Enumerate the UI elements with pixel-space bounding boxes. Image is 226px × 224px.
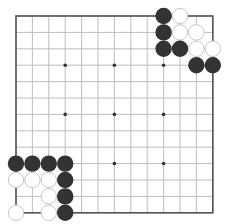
intersection[interactable]	[90, 188, 106, 204]
intersection[interactable]	[188, 106, 204, 122]
intersection[interactable]	[106, 90, 122, 106]
intersection[interactable]	[57, 73, 73, 89]
intersection[interactable]	[8, 8, 24, 24]
intersection[interactable]	[41, 24, 57, 40]
intersection[interactable]	[123, 8, 139, 24]
intersection[interactable]	[139, 8, 155, 24]
intersection[interactable]	[123, 106, 139, 122]
intersection[interactable]	[123, 41, 139, 57]
intersection[interactable]	[205, 106, 221, 122]
intersection[interactable]	[73, 106, 89, 122]
intersection[interactable]	[24, 57, 40, 73]
intersection[interactable]	[57, 41, 73, 57]
intersection[interactable]	[41, 106, 57, 122]
intersection[interactable]	[188, 139, 204, 155]
intersection[interactable]	[205, 90, 221, 106]
intersection[interactable]	[24, 41, 40, 57]
intersection[interactable]	[24, 205, 40, 221]
intersection[interactable]	[90, 41, 106, 57]
intersection[interactable]	[106, 188, 122, 204]
intersection[interactable]	[155, 139, 171, 155]
intersection[interactable]	[172, 123, 188, 139]
intersection[interactable]	[139, 155, 155, 171]
intersection[interactable]	[90, 90, 106, 106]
intersection[interactable]	[8, 106, 24, 122]
intersection[interactable]	[172, 90, 188, 106]
intersection[interactable]	[205, 155, 221, 171]
intersection[interactable]	[139, 106, 155, 122]
intersection[interactable]	[24, 188, 40, 204]
intersection[interactable]	[155, 57, 171, 73]
intersection[interactable]	[106, 41, 122, 57]
intersection[interactable]	[139, 172, 155, 188]
intersection[interactable]	[139, 139, 155, 155]
intersection[interactable]	[90, 139, 106, 155]
intersection[interactable]	[188, 188, 204, 204]
intersection[interactable]	[172, 139, 188, 155]
intersection[interactable]	[41, 139, 57, 155]
intersection[interactable]	[90, 155, 106, 171]
intersection[interactable]	[123, 155, 139, 171]
intersection[interactable]	[188, 155, 204, 171]
intersections[interactable]	[8, 8, 221, 221]
intersection[interactable]	[24, 139, 40, 155]
intersection[interactable]	[8, 123, 24, 139]
intersection[interactable]	[90, 8, 106, 24]
intersection[interactable]	[90, 123, 106, 139]
intersection[interactable]	[57, 24, 73, 40]
intersection[interactable]	[57, 57, 73, 73]
intersection[interactable]	[172, 172, 188, 188]
intersection[interactable]	[172, 106, 188, 122]
intersection[interactable]	[123, 205, 139, 221]
intersection[interactable]	[188, 8, 204, 24]
intersection[interactable]	[205, 188, 221, 204]
intersection[interactable]	[106, 123, 122, 139]
intersection[interactable]	[123, 73, 139, 89]
intersection[interactable]	[155, 90, 171, 106]
intersection[interactable]	[155, 106, 171, 122]
intersection[interactable]	[205, 8, 221, 24]
intersection[interactable]	[188, 123, 204, 139]
intersection[interactable]	[123, 188, 139, 204]
intersection[interactable]	[41, 123, 57, 139]
intersection[interactable]	[24, 8, 40, 24]
intersection[interactable]	[73, 172, 89, 188]
intersection[interactable]	[106, 8, 122, 24]
intersection[interactable]	[41, 57, 57, 73]
intersection[interactable]	[123, 123, 139, 139]
intersection[interactable]	[73, 139, 89, 155]
intersection[interactable]	[139, 57, 155, 73]
intersection[interactable]	[73, 73, 89, 89]
intersection[interactable]	[205, 172, 221, 188]
intersection[interactable]	[41, 41, 57, 57]
intersection[interactable]	[139, 205, 155, 221]
intersection[interactable]	[205, 123, 221, 139]
intersection[interactable]	[188, 73, 204, 89]
intersection[interactable]	[139, 123, 155, 139]
intersection[interactable]	[123, 24, 139, 40]
intersection[interactable]	[90, 106, 106, 122]
intersection[interactable]	[205, 73, 221, 89]
intersection[interactable]	[139, 41, 155, 57]
intersection[interactable]	[155, 73, 171, 89]
intersection[interactable]	[90, 24, 106, 40]
intersection[interactable]	[41, 90, 57, 106]
go-board[interactable]	[0, 0, 226, 224]
intersection[interactable]	[123, 57, 139, 73]
intersection[interactable]	[106, 172, 122, 188]
intersection[interactable]	[106, 155, 122, 171]
intersection[interactable]	[8, 188, 24, 204]
intersection[interactable]	[188, 90, 204, 106]
intersection[interactable]	[172, 155, 188, 171]
intersection[interactable]	[123, 172, 139, 188]
intersection[interactable]	[73, 123, 89, 139]
intersection[interactable]	[57, 106, 73, 122]
intersection[interactable]	[73, 90, 89, 106]
intersection[interactable]	[73, 41, 89, 57]
intersection[interactable]	[106, 106, 122, 122]
intersection[interactable]	[172, 205, 188, 221]
intersection[interactable]	[155, 155, 171, 171]
intersection[interactable]	[57, 123, 73, 139]
intersection[interactable]	[8, 57, 24, 73]
intersection[interactable]	[57, 139, 73, 155]
